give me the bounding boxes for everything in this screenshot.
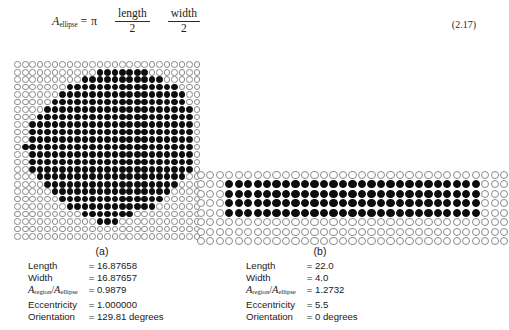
dot-filled <box>179 129 186 136</box>
dot-empty <box>22 106 29 113</box>
dot-filled <box>141 166 148 173</box>
dot-empty <box>29 173 36 180</box>
dot-filled <box>126 91 133 98</box>
dot-filled <box>67 91 74 98</box>
dot-filled <box>67 106 74 113</box>
dot-empty <box>339 228 347 236</box>
dot-empty <box>301 228 309 236</box>
dot-filled <box>97 129 104 136</box>
dot-filled <box>149 144 156 151</box>
dot-empty <box>29 76 36 83</box>
dot-filled <box>89 173 96 180</box>
dot-empty <box>67 226 74 233</box>
dot-filled <box>126 166 133 173</box>
dot-filled <box>29 144 36 151</box>
dot-row <box>14 128 201 135</box>
dot-empty <box>179 76 186 83</box>
dot-empty <box>216 190 224 198</box>
dot-empty <box>171 218 178 225</box>
dot-filled <box>126 211 133 218</box>
dot-filled <box>89 181 96 188</box>
dot-filled <box>82 121 89 128</box>
dot-empty <box>244 228 252 236</box>
dot-filled <box>104 203 111 210</box>
dot-filled <box>89 121 96 128</box>
dot-empty <box>197 171 205 179</box>
dot-filled <box>171 151 178 158</box>
dot-filled <box>171 181 178 188</box>
dot-filled <box>320 180 328 188</box>
dot-empty <box>282 171 290 179</box>
dot-filled <box>462 190 470 198</box>
dot-filled <box>358 199 366 207</box>
dot-empty <box>22 218 29 225</box>
dot-empty <box>37 99 44 106</box>
dot-empty <box>164 196 171 203</box>
dot-filled <box>97 106 104 113</box>
dot-filled <box>396 199 404 207</box>
dot-filled <box>453 199 461 207</box>
dot-empty <box>462 237 470 245</box>
dot-empty <box>82 218 89 225</box>
dot-filled <box>141 203 148 210</box>
dot-empty <box>44 69 51 76</box>
dot-empty <box>37 226 44 233</box>
dot-empty <box>14 188 21 195</box>
dot-empty <box>141 61 148 68</box>
dot-empty <box>171 76 178 83</box>
dot-filled <box>126 114 133 121</box>
dot-filled <box>59 144 66 151</box>
dot-empty <box>443 228 451 236</box>
dot-filled <box>134 84 141 91</box>
dot-empty <box>29 106 36 113</box>
dot-filled <box>443 180 451 188</box>
dot-filled <box>89 151 96 158</box>
dot-empty <box>225 218 233 226</box>
dot-empty <box>22 233 29 240</box>
stats-value: = 1.2732 <box>307 284 358 299</box>
dot-empty <box>149 69 156 76</box>
dot-empty <box>481 209 489 217</box>
dot-empty <box>104 233 111 240</box>
dot-empty <box>194 129 201 136</box>
dot-empty <box>179 233 186 240</box>
dot-empty <box>44 203 51 210</box>
dot-filled <box>112 166 119 173</box>
dot-empty <box>310 171 318 179</box>
dot-filled <box>112 181 119 188</box>
dot-filled <box>29 121 36 128</box>
dot-filled <box>171 173 178 180</box>
dot-filled <box>164 91 171 98</box>
dot-empty <box>472 171 480 179</box>
dot-empty <box>186 61 193 68</box>
dot-filled <box>74 166 81 173</box>
panel-caption-a: (a) <box>37 245 167 257</box>
dot-filled <box>134 69 141 76</box>
ratio-numerator-subscript: region <box>252 289 269 296</box>
dot-empty <box>348 228 356 236</box>
dot-row <box>14 181 201 188</box>
dot-empty <box>272 228 280 236</box>
dot-filled <box>97 173 104 180</box>
dot-empty <box>44 233 51 240</box>
stats-row: Width= 4.0 <box>246 272 358 284</box>
dot-filled <box>405 199 413 207</box>
dot-row <box>14 61 201 68</box>
dot-filled <box>126 203 133 210</box>
ratio-numerator-subscript: region <box>34 289 51 296</box>
dot-filled <box>67 114 74 121</box>
dot-filled <box>119 151 126 158</box>
dot-empty <box>216 237 224 245</box>
dot-filled <box>59 114 66 121</box>
dot-empty <box>134 211 141 218</box>
dot-empty <box>134 61 141 68</box>
dot-filled <box>104 188 111 195</box>
dot-empty <box>22 211 29 218</box>
stats-value: = 16.87657 <box>89 272 164 284</box>
dot-empty <box>22 188 29 195</box>
dot-filled <box>134 196 141 203</box>
dot-filled <box>82 196 89 203</box>
dot-filled <box>263 209 271 217</box>
dot-filled <box>67 129 74 136</box>
dot-filled <box>156 121 163 128</box>
